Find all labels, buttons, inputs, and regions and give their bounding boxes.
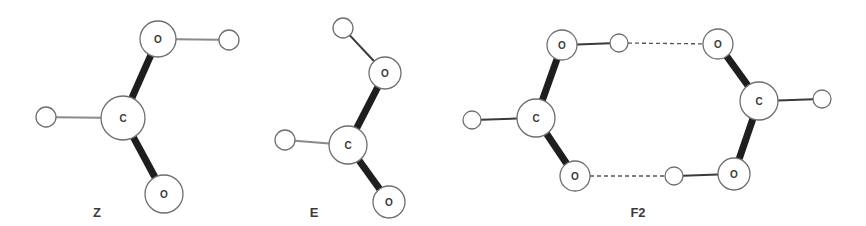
bonds-e (295, 35, 380, 189)
atoms-e: OCO (275, 18, 405, 218)
atom-label-o: O (381, 68, 389, 79)
molecule-e: OCO E (275, 18, 405, 220)
atom-h (36, 107, 56, 127)
covalent-bond (133, 137, 155, 177)
covalent-bond (359, 160, 380, 189)
molecule-z: OCO Z (36, 21, 239, 220)
covalent-bond (176, 39, 219, 40)
molecule-label-z: Z (93, 205, 101, 220)
covalent-bond (350, 35, 374, 61)
atom-label-o: O (730, 169, 738, 180)
atom-h (463, 111, 481, 129)
covalent-bond (295, 141, 329, 144)
dimer-f2: OCOOCO F2 (463, 29, 831, 220)
atom-label-c: C (532, 113, 539, 124)
covalent-bond (577, 43, 610, 44)
atom-label-o: O (558, 40, 566, 51)
atom-h (813, 90, 831, 108)
covalent-bond (542, 59, 557, 100)
covalent-bond (357, 87, 378, 128)
atom-h (665, 167, 683, 185)
covalent-bond (56, 117, 101, 118)
atom-h (333, 18, 353, 38)
atom-label-o: O (160, 189, 168, 200)
atom-h (610, 34, 628, 52)
hydrogen-bond (628, 43, 703, 44)
covalent-bond (778, 99, 813, 100)
atom-h (275, 130, 295, 150)
atom-label-o: O (714, 39, 722, 50)
covalent-bond (683, 175, 718, 176)
molecule-label-e: E (310, 205, 319, 220)
atom-label-o: O (154, 34, 162, 45)
covalent-bond (547, 134, 567, 164)
atom-label-o: O (571, 171, 579, 182)
covalent-bond (739, 119, 753, 159)
atom-label-c: C (119, 113, 126, 124)
molecular-structures-figure: OCO Z OCO E OCOOCO F2 (0, 0, 866, 226)
molecule-label-f2: F2 (630, 205, 645, 220)
covalent-bond (727, 56, 748, 85)
atom-label-c: C (755, 96, 762, 107)
atom-label-c: C (344, 140, 351, 151)
atom-h (219, 30, 239, 50)
atom-label-o: O (385, 197, 393, 208)
covalent-bond (481, 119, 517, 120)
covalent-bond (132, 55, 151, 97)
atoms-f2: OCOOCO (463, 29, 831, 191)
